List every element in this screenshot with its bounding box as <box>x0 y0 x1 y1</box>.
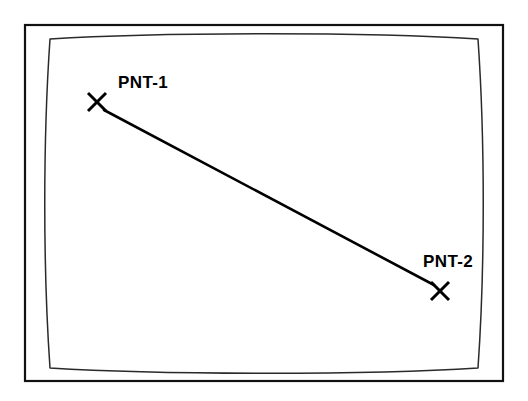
diagram-canvas: PNT-1 PNT-2 <box>0 0 528 401</box>
point-marker-pnt-1[interactable] <box>88 93 106 111</box>
inner-frame-border <box>45 34 484 374</box>
outer-frame-border <box>25 25 503 381</box>
diagram-svg: PNT-1 PNT-2 <box>0 0 528 401</box>
point-label-pnt-2: PNT-2 <box>423 252 473 271</box>
connector-line-pnt1-pnt2 <box>104 110 434 285</box>
point-label-pnt-1: PNT-1 <box>118 73 168 92</box>
point-marker-pnt-2[interactable] <box>431 282 449 300</box>
